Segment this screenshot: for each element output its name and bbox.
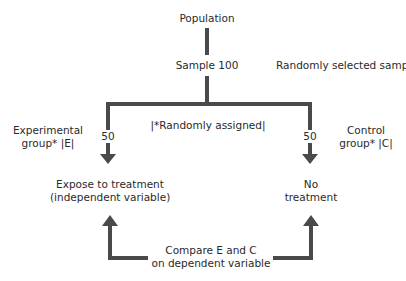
connector-compare-control xyxy=(273,224,311,258)
arrow-up-no-treatment-icon xyxy=(303,215,319,226)
control-group-label: Control group* |C| xyxy=(336,124,396,150)
arrow-down-control-icon xyxy=(302,154,318,164)
control-group-line2: group* |C| xyxy=(336,137,396,150)
treatment-label: Expose to treatment (independent variabl… xyxy=(50,178,170,204)
population-label: Population xyxy=(170,12,244,25)
experimental-group-line2: group* |E| xyxy=(10,137,86,150)
experimental-count: 50 xyxy=(99,130,117,143)
no-treatment-label: No treatment xyxy=(280,178,342,204)
connector-compare-experimental xyxy=(110,224,148,258)
treatment-line1: Expose to treatment xyxy=(50,178,170,191)
control-group-line1: Control xyxy=(336,124,396,137)
no-treatment-line2: treatment xyxy=(280,191,342,204)
experimental-group-label: Experimental group* |E| xyxy=(10,124,86,150)
compare-line2: on dependent variable xyxy=(150,257,272,270)
experimental-group-line1: Experimental xyxy=(10,124,86,137)
compare-line1: Compare E and C xyxy=(150,244,272,257)
compare-label: Compare E and C on dependent variable xyxy=(150,244,272,270)
sample-label: Sample 100 xyxy=(165,59,249,72)
no-treatment-line1: No xyxy=(280,178,342,191)
arrow-down-experimental-icon xyxy=(100,154,116,164)
treatment-line2: (independent variable) xyxy=(50,191,170,204)
arrow-up-treatment-icon xyxy=(102,215,118,226)
assignment-note: |*Randomly assigned| xyxy=(148,119,268,132)
sample-note: Randomly selected sample xyxy=(276,59,402,72)
control-count: 50 xyxy=(301,130,319,143)
